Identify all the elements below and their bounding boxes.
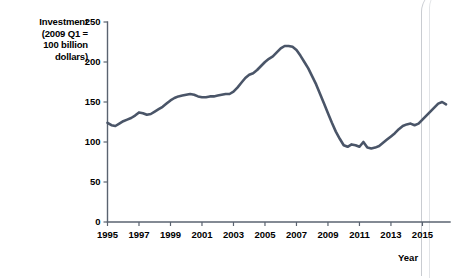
x-tick-label: 2015	[405, 229, 439, 240]
x-tick-label: 2011	[342, 229, 376, 240]
data-line-investment	[108, 46, 447, 148]
x-tick-label: 1997	[122, 229, 156, 240]
y-tick-label: 150	[75, 96, 101, 107]
x-tick-label: 2013	[374, 229, 408, 240]
x-tick-label: 1995	[91, 229, 125, 240]
y-tick-label: 250	[75, 16, 101, 27]
y-tick-label: 100	[75, 136, 101, 147]
y-tick-label: 50	[75, 176, 101, 187]
x-tick-label: 2007	[279, 229, 313, 240]
x-tick-label: 2001	[185, 229, 219, 240]
x-tick-label: 2005	[248, 229, 282, 240]
y-tick-label: 200	[75, 56, 101, 67]
x-tick-label: 1999	[153, 229, 187, 240]
y-tick-label: 0	[75, 216, 101, 227]
data-series-group	[108, 46, 447, 148]
x-tick-label: 2009	[311, 229, 345, 240]
x-tick-label: 2003	[216, 229, 250, 240]
